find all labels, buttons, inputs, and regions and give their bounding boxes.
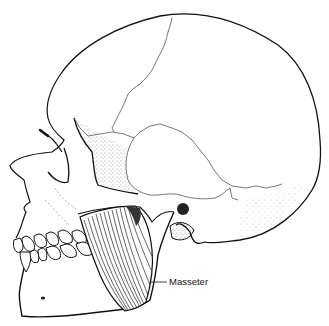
masseter-label: Masseter — [169, 276, 208, 288]
coronal-suture — [112, 18, 172, 132]
zygomatic-detail — [45, 188, 78, 226]
mental-foramen — [41, 297, 45, 300]
external-acoustic-meatus — [177, 203, 189, 215]
mastoid-process — [170, 223, 194, 240]
teeth — [13, 230, 96, 272]
masseter-muscle — [80, 206, 153, 311]
temporal-fossa — [74, 118, 138, 194]
temporal-suture — [126, 138, 230, 199]
orbit — [42, 132, 69, 183]
frontal-profile — [10, 75, 64, 238]
skull-illustration — [0, 0, 329, 326]
skull-drawing — [0, 0, 329, 326]
